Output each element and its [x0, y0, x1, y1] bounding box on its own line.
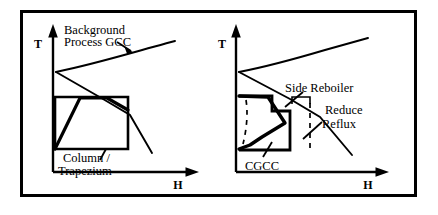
right-reduce-reflux-annotation-line1: Reduce: [325, 103, 363, 117]
right-y-axis-label: T: [218, 37, 226, 51]
left-gcc-annotation-line2: Process GCC: [64, 35, 131, 49]
left-x-axis-label: H: [173, 178, 183, 192]
figure-svg: T H Background Process GCC Column / Trap…: [0, 0, 438, 215]
left-column-annotation-line2: Trapezium: [58, 164, 112, 178]
left-y-axis-label: T: [34, 37, 42, 51]
figure-container: T H Background Process GCC Column / Trap…: [0, 0, 438, 215]
right-cgcc-annotation: CGCC: [245, 159, 279, 173]
left-column-annotation-line1: Column /: [63, 151, 110, 165]
right-side-reboiler-annotation: Side Reboiler: [285, 81, 354, 95]
right-x-axis-label: H: [363, 178, 373, 192]
right-reduce-reflux-annotation-line2: Reflux: [322, 117, 357, 131]
